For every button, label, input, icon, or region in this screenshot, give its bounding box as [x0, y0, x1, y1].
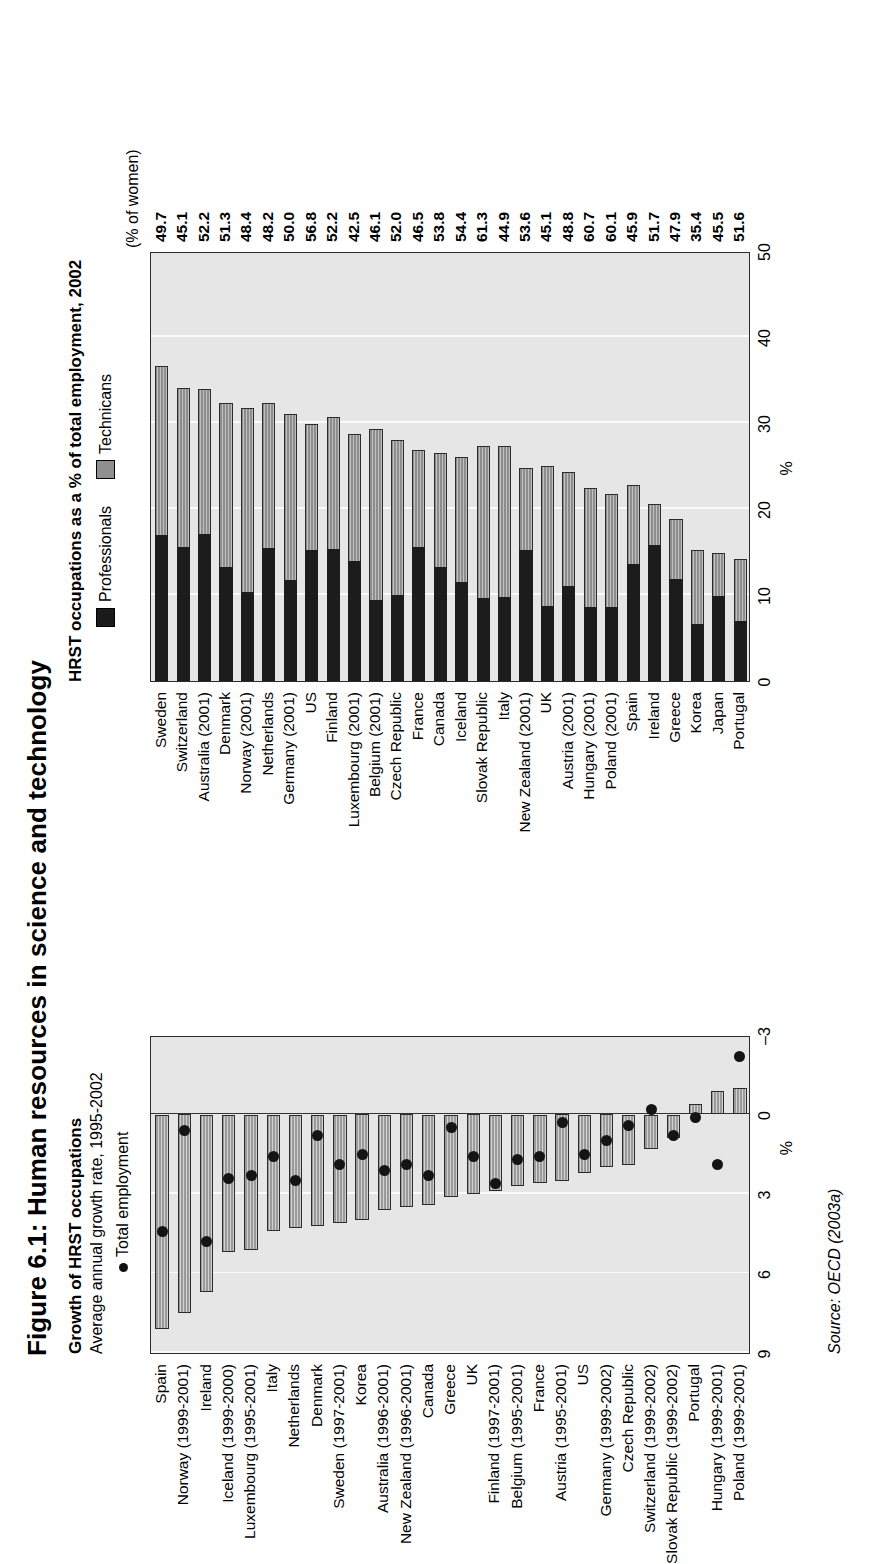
bar-segment-professionals	[519, 550, 532, 681]
hrst-share-2002-chart: Sweden49.7Switzerland45.1Australia (2001…	[150, 252, 750, 682]
bar-segment-professionals	[434, 567, 447, 681]
right-panel-legend-professionals: Professionals	[96, 506, 115, 627]
percent-of-women-value: 50.0	[280, 212, 298, 242]
bar-segment-professionals	[734, 621, 747, 681]
category-label: Iceland	[452, 692, 470, 742]
category-label: Netherlands	[285, 1364, 303, 1448]
category-label: Luxembourg (1995-2001)	[241, 1364, 259, 1539]
bar	[289, 1115, 302, 1229]
source-note: Source: OECD (2003a)	[826, 1189, 844, 1354]
left-chart-plot-area	[150, 1036, 750, 1354]
category-label: Belgium (2001)	[366, 692, 384, 797]
data-point-total-employment	[668, 1130, 679, 1141]
category-label: Ireland	[645, 692, 663, 739]
bar	[578, 1115, 591, 1173]
bar-segment-technicians	[327, 417, 340, 549]
gridline	[151, 1352, 749, 1354]
percent-of-women-value: 45.1	[537, 212, 555, 242]
percent-of-women-value: 53.8	[430, 212, 448, 242]
bar-segment-technicians	[155, 366, 168, 535]
axis-tick-label: 9	[756, 1350, 774, 1359]
bar-segment-professionals	[369, 600, 382, 681]
category-label: Ireland	[197, 1364, 215, 1411]
category-label: Slovak Republic (1999-2002)	[663, 1364, 681, 1564]
percent-of-women-value: 56.8	[302, 212, 320, 242]
bar	[200, 1115, 213, 1293]
bar-segment-professionals	[584, 607, 597, 681]
axis-label-percent: %	[778, 1141, 796, 1155]
category-label: Finland (1997-2001)	[485, 1364, 503, 1504]
data-point-total-employment	[357, 1149, 368, 1160]
bar-segment-technicians	[605, 494, 618, 608]
axis-tick-label: 50	[756, 243, 774, 261]
bar	[244, 1115, 257, 1250]
right-panel-legend-technicians: Technicans	[96, 374, 115, 479]
bar-segment-technicians	[434, 453, 447, 567]
bar	[378, 1115, 391, 1210]
category-label: Hungary (1999-2001)	[708, 1364, 726, 1511]
category-label: New Zealand (2001)	[516, 692, 534, 832]
axis-tick-label: 10	[756, 587, 774, 605]
percent-of-women-value: 51.6	[730, 212, 748, 242]
percent-of-women-value: 52.0	[387, 212, 405, 242]
legend-swatch-professionals-icon	[96, 608, 115, 627]
bar-segment-technicians	[219, 403, 232, 567]
bar-segment-technicians	[669, 519, 682, 578]
category-label: Czech Republic	[387, 692, 405, 801]
bar-segment-professionals	[669, 579, 682, 681]
data-point-total-employment	[557, 1117, 568, 1128]
gridline	[151, 1272, 749, 1274]
bar-segment-professionals	[691, 624, 704, 681]
category-label: Austria (1995-2001)	[552, 1364, 570, 1501]
bar-segment-technicians	[262, 403, 275, 547]
percent-of-women-value: 61.3	[473, 212, 491, 242]
bar-segment-professionals	[412, 547, 425, 681]
bar-segment-technicians	[541, 466, 554, 606]
growth-of-hrst-occupations-chart: SpainNorway (1999-2001)IrelandIceland (1…	[150, 1036, 750, 1354]
percent-of-women-value: 49.7	[152, 212, 170, 242]
percent-of-women-value: 45.1	[173, 212, 191, 242]
data-point-total-employment	[157, 1226, 168, 1237]
bar-segment-technicians	[391, 440, 404, 595]
bar-segment-technicians	[498, 446, 511, 597]
category-label: Greece	[666, 692, 684, 743]
category-label: Canada	[419, 1364, 437, 1418]
bar-segment-professionals	[605, 607, 618, 681]
bar-segment-professionals	[712, 596, 725, 681]
category-label: Iceland (1999-2000)	[219, 1364, 237, 1503]
bar-segment-professionals	[327, 549, 340, 681]
percent-of-women-value: 48.8	[559, 212, 577, 242]
category-label: Italy	[495, 692, 513, 720]
category-label: Greece	[441, 1364, 459, 1415]
bar-segment-technicians	[284, 414, 297, 579]
bar-segment-professionals	[455, 582, 468, 681]
category-label: Sweden	[152, 692, 170, 748]
data-point-total-employment	[579, 1149, 590, 1160]
data-point-total-employment	[623, 1120, 634, 1131]
category-label: Japan	[709, 692, 727, 734]
category-label: Canada	[430, 692, 448, 746]
left-panel-subheading: Average annual growth rate, 1995-2002	[88, 1072, 106, 1354]
bar	[155, 1115, 168, 1330]
axis-tick-label: 3	[756, 1191, 774, 1200]
category-label: Australia (1996-2001)	[374, 1364, 392, 1513]
category-label: UK	[537, 692, 555, 714]
bar-segment-professionals	[477, 598, 490, 681]
category-label: Korea	[352, 1364, 370, 1405]
right-chart-plot-area	[150, 252, 750, 682]
bar-segment-technicians	[627, 485, 640, 564]
left-panel-legend-total-employment: Total employment	[114, 1132, 132, 1272]
category-label: Denmark	[308, 1364, 326, 1427]
category-label: Norway (2001)	[237, 692, 255, 794]
category-label: US	[302, 692, 320, 714]
bar	[178, 1115, 191, 1314]
legend-label-professionals: Professionals	[97, 506, 115, 602]
bar-segment-professionals	[198, 534, 211, 681]
left-panel-heading: Growth of HRST occupations	[66, 1118, 86, 1354]
data-point-total-employment	[712, 1159, 723, 1170]
percent-of-women-value: 48.2	[259, 212, 277, 242]
percent-of-women-value: 42.5	[345, 212, 363, 242]
bar	[733, 1088, 746, 1115]
data-point-total-employment	[223, 1173, 234, 1184]
